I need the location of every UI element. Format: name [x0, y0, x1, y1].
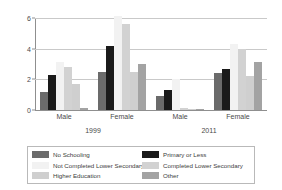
bar [238, 49, 246, 110]
legend-label: Other [163, 172, 178, 179]
bar [138, 64, 146, 110]
legend-label: Primary or Less [163, 151, 206, 158]
bar-group [93, 18, 151, 110]
legend-item[interactable]: Primary or Less [142, 150, 250, 159]
y-tick-label: 6 [27, 15, 31, 22]
bar [122, 24, 130, 110]
legend-item[interactable]: Completed Lower Secondary [142, 161, 250, 170]
legend-swatch [32, 151, 49, 158]
bar [222, 69, 230, 110]
chart-legend: No SchoolingNot Completed Lower Secondar… [27, 146, 255, 184]
legend-swatch [142, 151, 159, 158]
grouped-bar-chart: 0246 No SchoolingNot Completed Lower Sec… [0, 0, 282, 190]
bar [48, 75, 56, 110]
bar [40, 92, 48, 110]
bar [196, 109, 204, 110]
bar-group [209, 18, 267, 110]
legend-column-right: Primary or LessCompleted Lower Secondary… [142, 150, 250, 180]
y-tick-label: 0 [27, 107, 31, 114]
bar [180, 108, 188, 110]
bar [106, 46, 114, 110]
legend-swatch [32, 162, 49, 169]
x-axis-period-label: 1999 [85, 127, 101, 134]
y-tick-label: 2 [27, 76, 31, 83]
bar [254, 62, 262, 110]
plot-area: 0246 [35, 18, 267, 110]
legend-label: No Schooling [53, 151, 90, 158]
bar [156, 96, 164, 110]
bar [246, 76, 254, 110]
y-tick-label: 4 [27, 45, 31, 52]
bar [56, 62, 64, 110]
bar-group [151, 18, 209, 110]
legend-swatch [142, 162, 159, 169]
bar [214, 73, 222, 110]
legend-item[interactable]: Not Completed Lower Secondary [32, 161, 136, 170]
x-axis-period-label: 2011 [201, 127, 216, 134]
bar [114, 16, 122, 110]
legend-label: Higher Education [53, 172, 100, 179]
x-axis-group-label: Female [110, 113, 133, 120]
x-axis-line [35, 110, 267, 111]
bar [172, 79, 180, 110]
bar [80, 108, 88, 110]
legend-item[interactable]: Higher Education [32, 171, 136, 180]
legend-item[interactable]: No Schooling [32, 150, 136, 159]
legend-column-left: No SchoolingNot Completed Lower Secondar… [32, 150, 136, 180]
legend-item[interactable]: Other [142, 171, 250, 180]
bar [98, 72, 106, 110]
x-axis-group-label: Male [56, 113, 71, 120]
legend-label: Completed Lower Secondary [163, 162, 243, 169]
bar [130, 72, 138, 110]
bar [230, 44, 238, 110]
bar-group [35, 18, 93, 110]
bar [188, 109, 196, 110]
legend-label: Not Completed Lower Secondary [53, 162, 144, 169]
bar [72, 84, 80, 110]
bar [64, 67, 72, 110]
bar [164, 90, 172, 110]
legend-swatch [32, 172, 49, 179]
legend-swatch [142, 172, 159, 179]
x-axis-group-label: Female [226, 113, 249, 120]
x-axis-group-label: Male [172, 113, 187, 120]
